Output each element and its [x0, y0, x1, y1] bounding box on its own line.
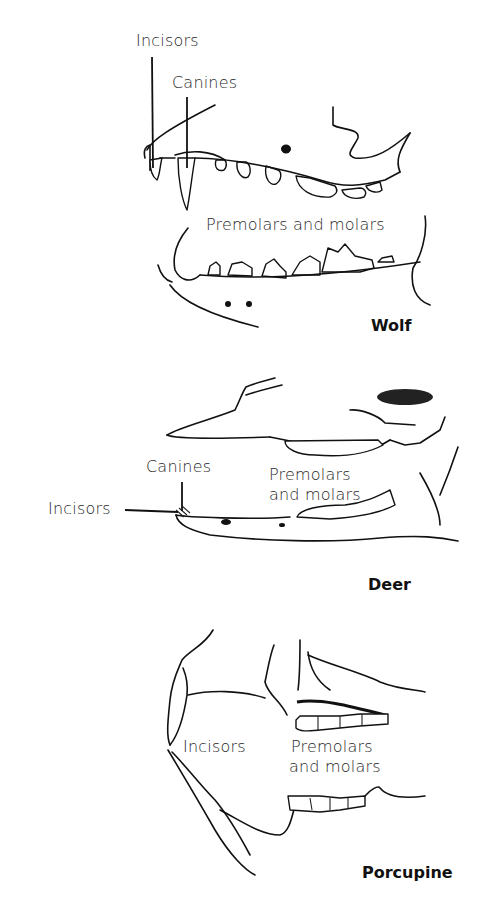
wolf-canines-label: Canines — [172, 74, 237, 92]
deer-title: Deer — [368, 575, 411, 594]
deer-panel: Canines Premolars and molars Incisors De… — [0, 345, 500, 610]
deer-premolars-label-line2: and molars — [269, 486, 361, 504]
porcupine-title: Porcupine — [362, 863, 453, 882]
deer-premolars-label-line1: Premolars — [269, 466, 351, 484]
porcupine-incisors-label: Incisors — [183, 738, 246, 756]
wolf-panel: Incisors Canines Premolars and molars Wo… — [0, 0, 500, 345]
porcupine-premolars-label-line2: and molars — [289, 758, 381, 776]
porcupine-panel: Incisors Premolars and molars Porcupine — [0, 610, 500, 897]
deer-incisors-label: Incisors — [48, 500, 111, 518]
wolf-skull-illustration — [0, 0, 500, 345]
porcupine-premolars-label-line1: Premolars — [291, 738, 373, 756]
wolf-premolars-molars-label: Premolars and molars — [206, 216, 385, 234]
porcupine-skull-illustration — [0, 610, 500, 897]
wolf-title: Wolf — [371, 316, 412, 335]
deer-canines-label: Canines — [146, 458, 211, 476]
deer-skull-illustration — [0, 345, 500, 610]
wolf-incisors-label: Incisors — [136, 32, 199, 50]
